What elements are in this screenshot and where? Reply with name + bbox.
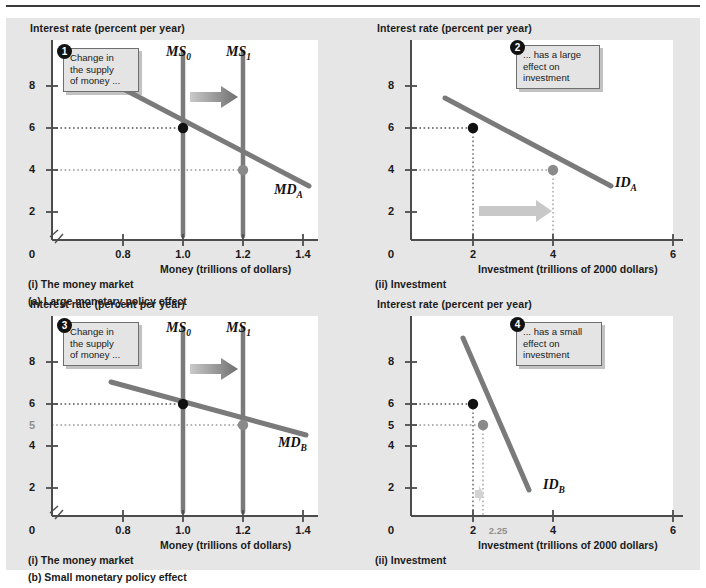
callout-line: of money ... (70, 75, 133, 87)
x-tick-label: 0.8 (108, 524, 138, 536)
y-tick-label: 6 (383, 397, 399, 409)
id-a-curve-label: IDA (615, 175, 637, 193)
step-badge: 3 (57, 318, 72, 333)
x-axis-title: Money (trillions of dollars) (160, 539, 291, 551)
x-tick-label: 2 (458, 248, 488, 260)
y-tick-label: 6 (24, 121, 40, 133)
ms0-label: MS0 (166, 44, 191, 62)
panel-caption: (i) The money market (28, 554, 134, 566)
panel-caption: (i) The money market (28, 278, 134, 290)
x-tick-label: 1.0 (168, 524, 198, 536)
ms1-sub: 1 (246, 52, 251, 62)
callout-line: investment (523, 72, 594, 84)
id-b-text: ID (543, 477, 559, 492)
panel-caption: (ii) Investment (375, 554, 446, 566)
x-tick-label: 0.8 (108, 248, 138, 260)
x-tick-label: 4 (538, 248, 568, 260)
md-a-text: MD (274, 182, 297, 197)
ms0-text: MS (166, 320, 186, 335)
panel-a-ii: Interest rate (percent per year) (353, 18, 700, 294)
origin-label: 0 (24, 524, 40, 536)
md-b-curve-label: MDB (278, 435, 307, 453)
ms1-label: MS1 (226, 44, 251, 62)
y-tick-label: 8 (24, 79, 40, 91)
y-tick-label: 4 (24, 439, 40, 451)
md-a-curve-label: MDA (274, 182, 303, 200)
x-tick-label: 1.0 (168, 248, 198, 260)
callout-box: Change in the supply of money ... (63, 48, 139, 92)
callout-box: ... has a small effect on investment (516, 322, 602, 366)
callout-line: ... has a large (523, 49, 594, 61)
callout-line: Change in (70, 52, 133, 64)
id-b-curve-label: IDB (543, 477, 565, 495)
y-tick-label: 6 (383, 121, 399, 133)
y-tick-label: 5 (24, 419, 40, 431)
callout-line: the supply (70, 64, 133, 76)
panel-b-ii: Interest rate (percent per year) (353, 294, 700, 570)
origin-label: 0 (383, 524, 399, 536)
callout-line: effect on (523, 338, 596, 350)
step-badge: 1 (57, 44, 72, 59)
y-tick-label: 2 (24, 205, 40, 217)
y-tick-label: 2 (383, 205, 399, 217)
ms1-text: MS (226, 44, 246, 59)
x-tick-label: 6 (658, 524, 688, 536)
x-axis-title: Investment (trillions of 2000 dollars) (478, 539, 658, 551)
callout-line: ... has a small (523, 326, 596, 338)
id-b-sub: B (559, 485, 565, 495)
x-tick-label: 1.2 (228, 248, 258, 260)
y-tick-label: 6 (24, 397, 40, 409)
md-b-text: MD (278, 435, 301, 450)
step-badge: 4 (510, 317, 525, 332)
callout-line: Change in (70, 326, 133, 338)
callout-line: of money ... (70, 349, 133, 361)
y-tick-label: 5 (383, 419, 399, 431)
ms1-sub: 1 (246, 328, 251, 338)
origin-label: 0 (24, 248, 40, 260)
ms0-label: MS0 (166, 320, 191, 338)
y-tick-label: 4 (24, 163, 40, 175)
step-badge: 2 (510, 40, 525, 55)
y-tick-label: 2 (24, 481, 40, 493)
top-rule (6, 5, 700, 7)
x-tick-label: 1.4 (288, 524, 318, 536)
y-tick-label: 2 (383, 481, 399, 493)
y-tick-label: 8 (24, 355, 40, 367)
id-a-text: ID (615, 175, 631, 190)
ms1-text: MS (226, 320, 246, 335)
ms0-sub: 0 (186, 52, 191, 62)
md-b-sub: B (301, 443, 307, 453)
x-tick-label: 1.2 (228, 524, 258, 536)
x-axis-title: Investment (trillions of 2000 dollars) (478, 263, 658, 275)
y-tick-label: 4 (383, 163, 399, 175)
panel-caption: (ii) Investment (375, 278, 446, 290)
figure-root: Interest rate (percent per year) (0, 0, 706, 588)
origin-label: 0 (383, 248, 399, 260)
callout-line: investment (523, 349, 596, 361)
x-axis-title: Money (trillions of dollars) (160, 263, 291, 275)
ms1-label: MS1 (226, 320, 251, 338)
callout-line: the supply (70, 338, 133, 350)
ms0-text: MS (166, 44, 186, 59)
callout-box: Change in the supply of money ... (63, 322, 139, 366)
x-tick-label: 1.4 (288, 248, 318, 260)
y-tick-label: 4 (383, 439, 399, 451)
callout-line: effect on (523, 61, 594, 73)
figure-body: Interest rate (percent per year) (6, 18, 700, 570)
x-tick-label: 2.25 (483, 525, 513, 536)
x-tick-label: 2 (463, 524, 483, 536)
x-tick-label: 4 (538, 524, 568, 536)
y-tick-label: 8 (383, 355, 399, 367)
id-a-sub: A (631, 183, 637, 193)
panel-a-i: Interest rate (percent per year) (6, 18, 356, 294)
y-tick-label: 8 (383, 79, 399, 91)
panel-b-i: Interest rate (percent per year) (6, 294, 356, 570)
ms0-sub: 0 (186, 328, 191, 338)
section-caption: (b) Small monetary policy effect (28, 571, 187, 583)
md-a-sub: A (297, 190, 303, 200)
x-tick-label: 6 (658, 248, 688, 260)
callout-box: ... has a large effect on investment (516, 45, 600, 89)
